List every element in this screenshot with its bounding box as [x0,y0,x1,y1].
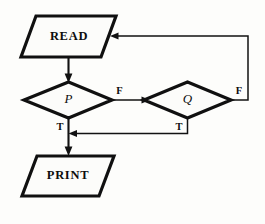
edge-q-true-to-print [69,118,188,137]
flowchart-canvas: READ P Q PRINT F T F T [0,0,265,224]
node-read[interactable]: READ [21,16,116,57]
node-decision-q[interactable]: Q [144,82,231,118]
flowchart-svg: READ P Q PRINT F T F T [0,0,265,224]
branch-label-p-false: F [116,85,122,96]
node-decision-p[interactable]: P [24,82,112,118]
node-print-label: PRINT [47,168,89,182]
edge-read-to-p [65,58,73,83]
branch-label-q-false: F [236,85,242,96]
node-print[interactable]: PRINT [22,156,114,196]
node-decision-q-label: Q [183,91,193,106]
node-decision-p-label: P [64,91,73,106]
branch-label-q-true: T [175,121,182,132]
branch-label-p-true: T [56,121,63,132]
edge-p-true-to-print [65,118,73,156]
node-read-label: READ [50,29,88,43]
